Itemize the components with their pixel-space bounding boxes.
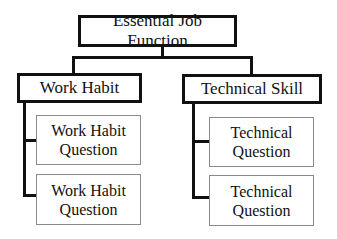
question-node-label: Work Habit Question — [37, 181, 140, 219]
root-node-label: Essential Job Function — [81, 11, 234, 51]
question-node-technical-1: Technical Question — [209, 117, 314, 167]
question-node-label: Technical Question — [210, 182, 313, 220]
right-branch-2-connector — [192, 196, 210, 199]
left-branch-2-connector — [23, 194, 37, 197]
right-drop-connector — [250, 56, 253, 75]
root-node-essential-job-function: Essential Job Function — [78, 15, 237, 47]
left-drop-connector — [72, 56, 75, 74]
right-branch-1-connector — [192, 140, 210, 143]
question-node-label: Work Habit Question — [37, 121, 140, 159]
category-node-technical-skill: Technical Skill — [182, 74, 322, 104]
question-node-technical-2: Technical Question — [209, 175, 314, 226]
category-node-label: Work Habit — [40, 78, 119, 98]
question-node-work-habit-2: Work Habit Question — [36, 174, 141, 225]
root-horizontal-connector — [72, 56, 253, 59]
category-node-work-habit: Work Habit — [17, 73, 142, 103]
category-node-label: Technical Skill — [201, 79, 303, 99]
question-node-work-habit-1: Work Habit Question — [36, 115, 141, 165]
left-spine-connector — [23, 102, 26, 197]
left-branch-1-connector — [23, 139, 37, 142]
question-node-label: Technical Question — [210, 123, 313, 161]
right-spine-connector — [192, 103, 195, 199]
